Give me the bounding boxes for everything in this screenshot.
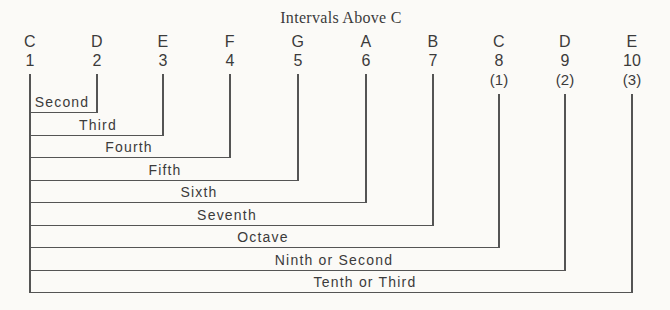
note-letter: F <box>225 35 235 49</box>
intervals-diagram: Intervals Above C C1D2E3F4G5A6B7C8(1)D9(… <box>0 0 670 310</box>
interval-label: Fourth <box>105 140 153 155</box>
note-letter: E <box>157 35 168 49</box>
note-letter: G <box>292 35 305 49</box>
scale-degree-number: 7 <box>429 54 438 68</box>
note-stem-line <box>297 74 298 181</box>
interval-label: Seventh <box>197 208 257 223</box>
interval-label: Sixth <box>180 185 217 200</box>
note-letter: A <box>360 35 371 49</box>
note-stem-line <box>162 74 163 136</box>
interval-bracket-line <box>30 247 499 248</box>
scale-degree-number: 5 <box>294 54 303 68</box>
note-stem-line <box>564 94 565 271</box>
note-stem-line <box>498 94 499 248</box>
interval-bracket-line <box>30 202 366 203</box>
scale-degree-number: 8 <box>495 54 504 68</box>
note-letter: C <box>493 35 505 49</box>
interval-label: Octave <box>237 230 289 245</box>
note-letter: D <box>91 35 103 49</box>
scale-degree-number: 1 <box>26 54 35 68</box>
interval-label: Third <box>79 118 117 133</box>
scale-degree-number: 3 <box>159 54 168 68</box>
compound-degree-annotation: (2) <box>556 72 574 87</box>
note-stem-line <box>96 74 97 113</box>
note-stem-line <box>631 94 632 293</box>
diagram-title: Intervals Above C <box>280 10 402 26</box>
scale-degree-number: 6 <box>362 54 371 68</box>
scale-degree-number: 10 <box>623 54 641 68</box>
note-stem-line <box>29 74 30 293</box>
compound-degree-annotation: (3) <box>623 72 641 87</box>
interval-bracket-line <box>30 225 433 226</box>
note-letter: E <box>626 35 637 49</box>
interval-bracket-line <box>30 135 163 136</box>
interval-label: Ninth or Second <box>275 253 393 268</box>
note-stem-line <box>432 74 433 226</box>
interval-bracket-line <box>30 157 230 158</box>
interval-bracket-line <box>30 270 565 271</box>
scale-degree-number: 9 <box>561 54 570 68</box>
interval-bracket-line <box>30 292 632 293</box>
interval-bracket-line <box>30 112 97 113</box>
interval-bracket-line <box>30 180 298 181</box>
note-letter: D <box>559 35 571 49</box>
compound-degree-annotation: (1) <box>490 72 508 87</box>
interval-label: Second <box>35 95 90 110</box>
scale-degree-number: 2 <box>93 54 102 68</box>
interval-label: Fifth <box>148 163 181 178</box>
interval-label: Tenth or Third <box>314 275 417 290</box>
scale-degree-number: 4 <box>226 54 235 68</box>
note-stem-line <box>365 74 366 203</box>
note-stem-line <box>229 74 230 158</box>
note-letter: C <box>24 35 36 49</box>
note-letter: B <box>427 35 438 49</box>
